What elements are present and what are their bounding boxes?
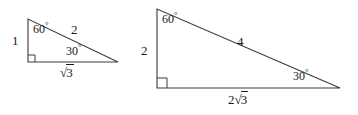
small-triangle-top-angle-value: 60	[33, 22, 45, 36]
small-triangle-bottom-angle-label: 30°	[66, 45, 82, 57]
degree-icon: °	[174, 10, 178, 20]
large-triangle-top-angle-label: 60°	[162, 13, 178, 25]
small-triangle-right-angle-marker	[28, 55, 35, 62]
degree-icon: °	[78, 42, 82, 52]
degree-icon: °	[45, 20, 49, 30]
large-triangle-shape	[157, 9, 340, 88]
large-triangle-base-label: 2√3	[228, 93, 248, 106]
large-triangle-bottom-angle-value: 30	[293, 69, 305, 83]
sqrt-expression: √3	[60, 66, 74, 79]
large-triangle-top-angle-value: 60	[162, 12, 174, 26]
small-triangle-base-label: √3	[60, 66, 74, 79]
triangle-drawing-layer	[0, 0, 358, 115]
large-triangle-outline	[157, 9, 340, 88]
radicand: 3	[241, 91, 249, 107]
small-triangle-bottom-angle-value: 30	[66, 44, 78, 58]
small-triangle-top-angle-label: 60°	[33, 23, 49, 35]
radicand: 3	[66, 64, 74, 80]
large-triangle-right-angle-marker	[157, 78, 167, 88]
small-triangle-hypotenuse-label: 2	[71, 23, 78, 36]
small-triangle-vertical-side-label: 1	[12, 34, 19, 47]
degree-icon: °	[305, 67, 309, 77]
large-triangle-hypotenuse-label: 4	[237, 35, 244, 48]
large-triangle-bottom-angle-label: 30°	[293, 70, 309, 82]
geometry-figure: 1 2 60° 30° √3 2 4 60° 30° 2√3	[0, 0, 358, 115]
large-triangle-vertical-side-label: 2	[141, 44, 148, 57]
sqrt-expression: √3	[235, 93, 249, 106]
